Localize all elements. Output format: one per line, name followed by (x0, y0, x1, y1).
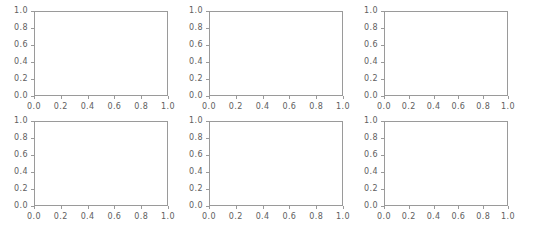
x-tick-mark (409, 96, 410, 99)
y-tick-label: 1.0 (173, 115, 203, 126)
x-tick-mark (289, 96, 290, 99)
plot-area (34, 121, 168, 206)
y-tick-label: 0.4 (173, 166, 203, 177)
y-tick-label: 0.2 (348, 183, 378, 194)
y-tick-label: 1.0 (348, 5, 378, 16)
plot-area (384, 11, 508, 96)
x-tick-mark (409, 206, 410, 209)
y-tick-label: 0.6 (348, 149, 378, 160)
x-tick-label: 1.0 (152, 211, 184, 222)
matplotlib-figure: 0.00.20.40.60.81.00.00.20.40.60.81.00.00… (0, 0, 534, 225)
subplot-6: 0.00.20.40.60.81.00.00.20.40.60.81.0 (384, 121, 508, 206)
x-tick-mark (343, 96, 344, 99)
y-tick-label: 0.2 (173, 73, 203, 84)
y-tick-label: 0.8 (348, 132, 378, 143)
x-tick-mark (458, 206, 459, 209)
y-tick-label: 0.0 (0, 200, 28, 211)
x-tick-label: 1.0 (327, 101, 359, 112)
plot-area (209, 11, 343, 96)
x-tick-mark (434, 206, 435, 209)
x-tick-mark (168, 96, 169, 99)
y-tick-label: 0.2 (0, 183, 28, 194)
y-tick-label: 0.2 (173, 183, 203, 194)
y-tick-label: 0.6 (0, 39, 28, 50)
x-tick-mark (209, 96, 210, 99)
x-tick-mark (141, 206, 142, 209)
x-tick-mark (236, 96, 237, 99)
x-tick-mark (263, 96, 264, 99)
x-tick-mark (384, 206, 385, 209)
y-tick-label: 1.0 (0, 115, 28, 126)
x-tick-mark (114, 206, 115, 209)
y-tick-label: 0.8 (0, 132, 28, 143)
y-tick-label: 0.6 (173, 149, 203, 160)
y-tick-label: 0.0 (173, 200, 203, 211)
x-tick-mark (289, 206, 290, 209)
y-tick-label: 0.8 (0, 22, 28, 33)
plot-area (34, 11, 168, 96)
y-tick-label: 0.6 (0, 149, 28, 160)
subplot-3: 0.00.20.40.60.81.00.00.20.40.60.81.0 (384, 11, 508, 96)
y-tick-label: 0.4 (0, 166, 28, 177)
x-tick-mark (61, 96, 62, 99)
y-tick-label: 0.8 (173, 132, 203, 143)
x-tick-mark (61, 206, 62, 209)
y-tick-label: 0.0 (348, 90, 378, 101)
x-tick-mark (34, 206, 35, 209)
y-tick-label: 0.2 (348, 73, 378, 84)
x-tick-label: 1.0 (327, 211, 359, 222)
x-tick-label: 1.0 (152, 101, 184, 112)
y-tick-label: 0.2 (0, 73, 28, 84)
y-tick-label: 0.8 (348, 22, 378, 33)
y-tick-label: 0.8 (173, 22, 203, 33)
x-tick-mark (508, 206, 509, 209)
x-tick-mark (316, 206, 317, 209)
y-tick-label: 0.4 (0, 56, 28, 67)
x-tick-mark (508, 96, 509, 99)
x-tick-mark (168, 206, 169, 209)
y-tick-label: 0.0 (173, 90, 203, 101)
x-tick-mark (236, 206, 237, 209)
y-tick-label: 0.4 (173, 56, 203, 67)
x-tick-mark (88, 206, 89, 209)
x-tick-label: 1.0 (492, 211, 524, 222)
y-tick-label: 1.0 (0, 5, 28, 16)
x-tick-mark (88, 96, 89, 99)
plot-area (384, 121, 508, 206)
x-tick-mark (263, 206, 264, 209)
subplot-5: 0.00.20.40.60.81.00.00.20.40.60.81.0 (209, 121, 343, 206)
subplot-1: 0.00.20.40.60.81.00.00.20.40.60.81.0 (34, 11, 168, 96)
subplot-4: 0.00.20.40.60.81.00.00.20.40.60.81.0 (34, 121, 168, 206)
x-tick-mark (483, 206, 484, 209)
y-tick-label: 1.0 (173, 5, 203, 16)
x-tick-mark (483, 96, 484, 99)
x-tick-mark (316, 96, 317, 99)
y-tick-label: 0.6 (173, 39, 203, 50)
y-tick-label: 0.6 (348, 39, 378, 50)
y-tick-label: 0.4 (348, 56, 378, 67)
x-tick-mark (384, 96, 385, 99)
x-tick-mark (114, 96, 115, 99)
y-tick-label: 0.0 (0, 90, 28, 101)
subplot-2: 0.00.20.40.60.81.00.00.20.40.60.81.0 (209, 11, 343, 96)
x-tick-mark (34, 96, 35, 99)
x-tick-mark (209, 206, 210, 209)
x-tick-mark (458, 96, 459, 99)
x-tick-label: 1.0 (492, 101, 524, 112)
x-tick-mark (434, 96, 435, 99)
y-tick-label: 1.0 (348, 115, 378, 126)
plot-area (209, 121, 343, 206)
y-tick-label: 0.4 (348, 166, 378, 177)
y-tick-label: 0.0 (348, 200, 378, 211)
x-tick-mark (343, 206, 344, 209)
x-tick-mark (141, 96, 142, 99)
